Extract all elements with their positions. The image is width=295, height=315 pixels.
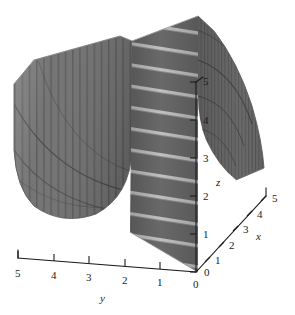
- y-tick-label-2: 2: [122, 274, 128, 286]
- y-axis-line: [18, 258, 196, 272]
- y-tick-label-4: 4: [51, 269, 57, 281]
- z-tick-label-3: 3: [203, 152, 209, 164]
- x-tick-1: [205, 257, 210, 262]
- z-tick-label-1: 1: [203, 228, 209, 240]
- z-tick-label-0: 0: [204, 266, 210, 278]
- x-tick-3: [233, 226, 238, 231]
- x-tick-label-5: 5: [272, 192, 278, 204]
- z-tick-label-4: 4: [203, 114, 209, 126]
- y-tick-label-1: 1: [157, 276, 163, 288]
- x-tick-label-2: 2: [229, 239, 235, 251]
- surface-center-band: [125, 10, 205, 278]
- z-tick-label-5: 5: [203, 75, 209, 87]
- y-tick-label-5: 5: [15, 267, 21, 279]
- x-tick-4: [247, 211, 252, 216]
- x-tick-5: [261, 196, 266, 201]
- x-tick-label-3: 3: [243, 223, 249, 235]
- z-axis-label: z: [215, 176, 221, 188]
- x-tick-label-4: 4: [257, 208, 263, 220]
- surface-left-bowl: [8, 30, 140, 236]
- y-axis-label: y: [99, 292, 105, 304]
- plot-canvas: 0 1 2 3 4 5 z 1 2 3 4 5 x: [0, 0, 295, 315]
- y-axis: 0 1 2 3 4 5 y: [15, 250, 199, 304]
- surface-plot-figure: 0 1 2 3 4 5 z 1 2 3 4 5 x: [0, 0, 295, 315]
- y-tick-label-0: 0: [193, 278, 199, 290]
- x-tick-label-1: 1: [215, 254, 221, 266]
- x-axis-label: x: [255, 230, 261, 242]
- z-tick-label-2: 2: [203, 190, 209, 202]
- y-tick-label-3: 3: [86, 271, 92, 283]
- x-tick-2: [219, 242, 224, 247]
